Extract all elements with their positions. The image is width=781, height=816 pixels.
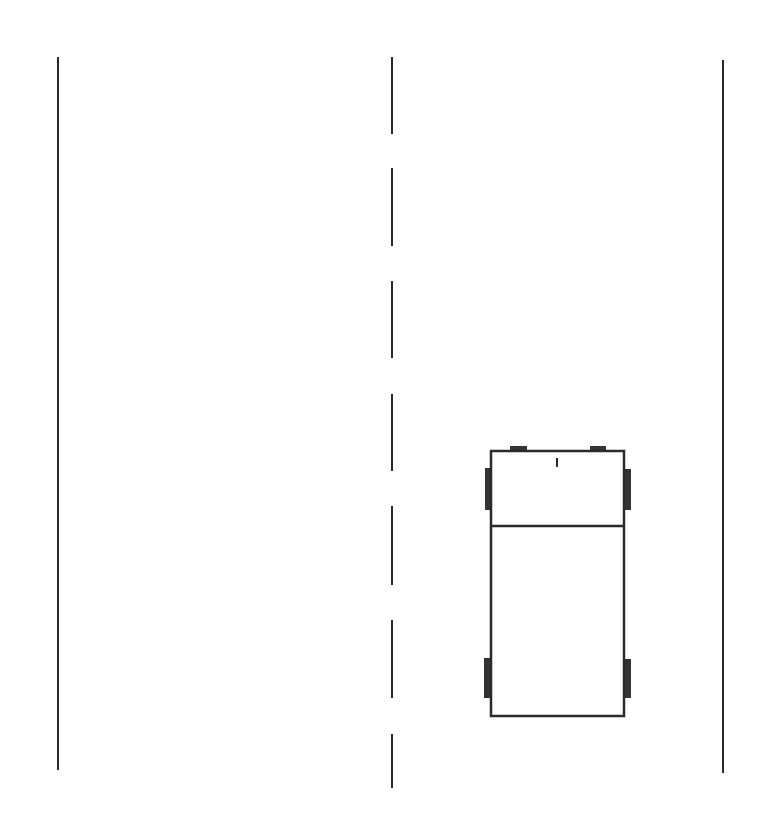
car bbox=[484, 446, 631, 716]
car-body bbox=[491, 451, 624, 716]
road-diagram bbox=[0, 0, 781, 816]
